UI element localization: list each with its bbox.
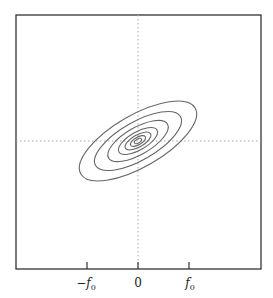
contour-plot	[0, 0, 273, 298]
tick-label-zero: 0	[134, 276, 142, 290]
plot-frame	[16, 15, 261, 269]
x-ticks	[87, 262, 189, 269]
tick-label-neg-f0: −f0	[76, 276, 96, 292]
tick-label-f0: f0	[185, 276, 195, 292]
